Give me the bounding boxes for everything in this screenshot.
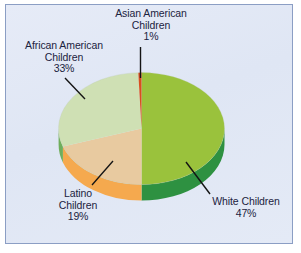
- slice-label-white-children: White Children 47%: [196, 196, 296, 219]
- slice-label-line1: Latino: [32, 188, 124, 200]
- slice-label-african-american-children: African American Children 33%: [8, 40, 120, 75]
- slice-label-line1: African American: [8, 40, 120, 52]
- pie-chart-figure: Asian American Children 1% African Ameri…: [0, 0, 301, 253]
- slice-label-latino-children: Latino Children 19%: [32, 188, 124, 223]
- slice-label-value: 47%: [196, 208, 296, 220]
- slice-label-value: 19%: [32, 211, 124, 223]
- slice-label-asian-american-children: Asian American Children 1%: [96, 8, 206, 43]
- slice-label-value: 33%: [8, 63, 120, 75]
- slice-label-line1: Asian American: [96, 8, 206, 20]
- slice-label-line1: White Children: [196, 196, 296, 208]
